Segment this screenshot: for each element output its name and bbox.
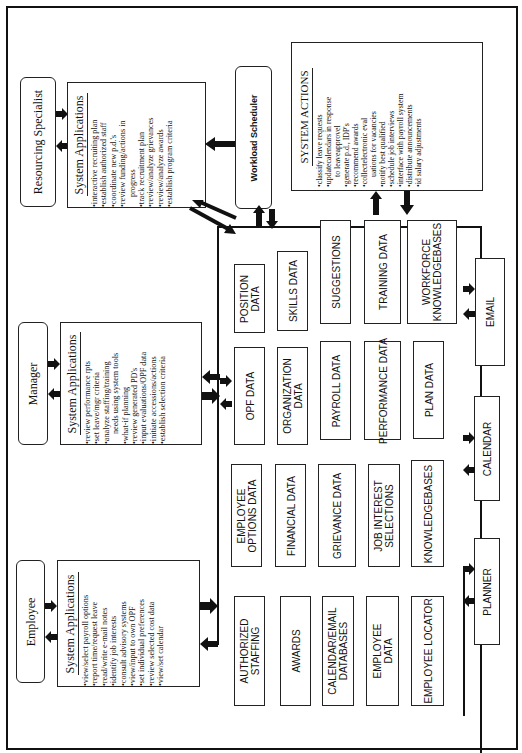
arrow-right-icon bbox=[463, 432, 475, 444]
db-label: SKILLS DATA bbox=[287, 260, 298, 322]
db-knowledgebases: KNOWLEDGEBASES bbox=[411, 460, 444, 567]
list-item: •classify leave requests bbox=[315, 47, 324, 187]
db-financial-data: FINANCIAL DATA bbox=[275, 464, 306, 567]
db-label: AWARDS bbox=[290, 629, 301, 672]
arrow-right-icon bbox=[463, 563, 475, 575]
sysapps-list: •review performance rpts •set leave/mgr … bbox=[81, 324, 168, 444]
db-label: KNOWLEDGEBASES bbox=[422, 464, 433, 562]
db-organization-data: ORGANIZATION DATA bbox=[277, 347, 308, 445]
db-label: JOB INTEREST SELECTIONS bbox=[373, 480, 395, 552]
list-item: needs using system tools bbox=[111, 324, 120, 444]
actor-label: Manager bbox=[26, 362, 41, 405]
db-grievance-data: GRIEVANCE DATA bbox=[318, 464, 356, 567]
db-label: PERFORMANCE DATA bbox=[377, 338, 388, 444]
system-actions-title: SYSTEM ACTIONS bbox=[297, 68, 313, 165]
list-item: •id salary adjustments bbox=[414, 47, 423, 187]
list-item: uations for vacancies bbox=[369, 47, 378, 187]
db-label: EMPLOYEE DATA bbox=[372, 623, 394, 678]
tool-calendar: CALENDAR bbox=[474, 396, 500, 501]
tool-label: PLANNER bbox=[482, 568, 493, 615]
arrow-left-icon bbox=[205, 137, 235, 151]
arrow-down-icon bbox=[400, 191, 414, 215]
list-item: •consult advisory systems bbox=[118, 562, 127, 686]
db-opf-data: OPF DATA bbox=[234, 347, 265, 445]
list-item: •interface with payroll system bbox=[396, 47, 405, 187]
db-position-data: POSITION DATA bbox=[234, 264, 265, 333]
list-item: •interactive recruiting plan bbox=[90, 83, 99, 207]
system-actions-panel: SYSTEM ACTIONS •classify leave requests … bbox=[291, 42, 483, 191]
list-item: •generate p.d., IDP's bbox=[342, 47, 351, 187]
db-label: EMPLOYEE LOCATOR bbox=[422, 598, 433, 703]
db-label: GRIEVANCE DATA bbox=[332, 472, 343, 558]
actor-label: Employee bbox=[23, 597, 38, 646]
list-item: •review/analyze grievances bbox=[146, 83, 155, 207]
list-item: •what-if planning bbox=[121, 324, 130, 444]
list-item: •recommend awards bbox=[351, 47, 360, 187]
list-item: •review generated PD's bbox=[130, 324, 139, 444]
list-item: •identify job interests bbox=[109, 562, 118, 686]
actor-resourcing-specialist: Resourcing Specialist bbox=[20, 77, 56, 207]
list-item: •view/set calendar bbox=[156, 562, 165, 686]
arrow-up-icon bbox=[253, 205, 265, 227]
db-label: AUTHORIZED STAFFING bbox=[239, 619, 261, 684]
list-item: progress bbox=[127, 83, 136, 207]
sysapps-list: •view/select payroll options •report tim… bbox=[79, 562, 166, 686]
list-item: •review performance rpts bbox=[83, 324, 92, 444]
db-label: FINANCIAL DATA bbox=[285, 476, 296, 556]
actor-employee: Employee bbox=[16, 560, 45, 683]
db-label: ORGANIZATION DATA bbox=[282, 358, 304, 433]
list-item: •notify best qualified bbox=[378, 47, 387, 187]
arrow-left-icon bbox=[463, 464, 475, 476]
list-item: •review selected cost data bbox=[146, 562, 155, 686]
sysapps-employee: System Applications •view/select payroll… bbox=[57, 560, 200, 687]
arrow-up-icon bbox=[370, 191, 382, 215]
sysapps-title: System Applications bbox=[65, 332, 81, 435]
list-item: •coordinate new p.d.'s bbox=[108, 83, 117, 207]
list-item: •initiate accessions/actions bbox=[149, 324, 158, 444]
db-label: CALENDAR/EMAIL DATABASES bbox=[327, 607, 349, 694]
db-employee-data: EMPLOYEE DATA bbox=[366, 596, 399, 706]
db-awards: AWARDS bbox=[280, 596, 311, 706]
actor-label: Workload Scheduler bbox=[249, 94, 259, 181]
list-item: •review/analyze awards bbox=[155, 83, 164, 207]
arrow-left-icon bbox=[463, 595, 475, 607]
db-label: WORKFORCE KNOWLEDGEBASES bbox=[421, 223, 443, 321]
db-label: OPF DATA bbox=[244, 372, 255, 421]
sysapps-resourcing-specialist: System Applications •interactive recruit… bbox=[67, 82, 206, 208]
tools-bus-line bbox=[463, 566, 465, 716]
db-payroll-data: PAYROLL DATA bbox=[320, 341, 351, 440]
list-item: •set individual preferences bbox=[137, 562, 146, 686]
db-label: SUGGESTIONS bbox=[330, 235, 341, 308]
db-suggestions: SUGGESTIONS bbox=[320, 220, 351, 324]
sysapps-title: System Applications bbox=[63, 572, 79, 675]
list-item: to leaveapprovel bbox=[333, 47, 342, 187]
diagonal-arrows-icon bbox=[188, 200, 240, 236]
db-job-interest-selections: JOB INTEREST SELECTIONS bbox=[368, 464, 400, 567]
actor-manager: Manager bbox=[18, 322, 48, 445]
list-item: •schedule job interviews bbox=[387, 47, 396, 187]
list-item: •distribute announcements bbox=[405, 47, 414, 187]
system-actions-list: •classify leave requests •updatecalendar… bbox=[313, 47, 423, 187]
list-item: •read/write e-mail notes bbox=[99, 562, 108, 686]
list-item: •collectelectronic eval bbox=[360, 47, 369, 187]
arrow-left-icon bbox=[463, 308, 475, 320]
db-skills-data: SKILLS DATA bbox=[277, 251, 308, 331]
db-label: TRAINING DATA bbox=[377, 234, 388, 310]
list-item: •report time/request leave bbox=[90, 562, 99, 686]
tool-planner: PLANNER bbox=[474, 538, 500, 645]
list-item: •track recruitment plan bbox=[137, 83, 146, 207]
arrow-left-icon bbox=[48, 388, 60, 400]
db-performance-data: PERFORMANCE DATA bbox=[364, 341, 401, 440]
db-calendar-email-databases: CALENDAR/EMAIL DATABASES bbox=[322, 596, 354, 706]
list-item: •establish selection criteria bbox=[158, 324, 167, 444]
db-authorized-staffing: AUTHORIZED STAFFING bbox=[234, 596, 265, 706]
tool-label: EMAIL bbox=[485, 297, 496, 327]
db-label: PLAN DATA bbox=[423, 363, 434, 417]
db-employee-locator: EMPLOYEE LOCATOR bbox=[411, 596, 444, 706]
arrow-right-icon bbox=[48, 358, 60, 370]
db-label: EMPLOYEE OPTIONS DATA bbox=[236, 479, 258, 552]
actor-workload-scheduler: Workload Scheduler bbox=[235, 66, 272, 209]
tool-email: EMAIL bbox=[475, 258, 505, 366]
list-item: •input evaluations/OPF data bbox=[139, 324, 148, 444]
actor-label: Resourcing Specialist bbox=[31, 90, 46, 194]
